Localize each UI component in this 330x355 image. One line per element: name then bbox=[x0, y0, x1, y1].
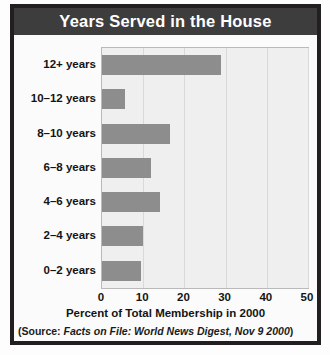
x-axis-tick-label: 50 bbox=[301, 291, 314, 303]
bar bbox=[102, 192, 160, 212]
plot-area bbox=[101, 47, 309, 289]
x-axis-tick-label: 10 bbox=[136, 291, 149, 303]
x-axis-tick-label: 30 bbox=[218, 291, 231, 303]
x-axis-tick-label: 40 bbox=[259, 291, 272, 303]
bar-row bbox=[102, 48, 308, 82]
source-suffix: ) bbox=[290, 325, 294, 337]
bar bbox=[102, 158, 151, 178]
bar bbox=[102, 124, 170, 144]
bar-row bbox=[102, 117, 308, 151]
bar bbox=[102, 55, 221, 75]
bar-row bbox=[102, 151, 308, 185]
y-axis-tick-label: 0–2 years bbox=[14, 253, 96, 287]
x-axis-labels: 01020304050 bbox=[101, 291, 307, 307]
y-axis-tick-label: 4–6 years bbox=[14, 184, 96, 218]
y-axis-tick-label: 2–4 years bbox=[14, 218, 96, 252]
gridline bbox=[308, 48, 309, 288]
bar-row bbox=[102, 185, 308, 219]
y-axis-tick-label: 12+ years bbox=[14, 47, 96, 81]
bar-series bbox=[102, 48, 308, 288]
bar-row bbox=[102, 82, 308, 116]
y-axis-tick-label: 10–12 years bbox=[14, 81, 96, 115]
y-axis-labels: 12+ years 10–12 years 8–10 years 6–8 yea… bbox=[14, 47, 96, 287]
source-note: (Source: Facts on File: World News Diges… bbox=[18, 325, 293, 337]
source-prefix: (Source: bbox=[18, 325, 61, 337]
chart-title-bar: Years Served in the House bbox=[14, 8, 317, 35]
bar bbox=[102, 226, 143, 246]
source-citation: Facts on File: World News Digest, Nov 9 … bbox=[64, 325, 290, 337]
page-title: Years Served in the House bbox=[59, 12, 271, 31]
x-axis-tick-label: 0 bbox=[98, 291, 104, 303]
bar bbox=[102, 261, 141, 281]
bar-row bbox=[102, 254, 308, 288]
x-axis-title: Percent of Total Membership in 2000 bbox=[14, 307, 317, 319]
y-axis-tick-label: 8–10 years bbox=[14, 116, 96, 150]
bar bbox=[102, 89, 125, 109]
bar-row bbox=[102, 219, 308, 253]
y-axis-tick-label: 6–8 years bbox=[14, 150, 96, 184]
x-axis-tick-label: 20 bbox=[177, 291, 190, 303]
chart-figure: Years Served in the House 12+ years 10–1… bbox=[0, 0, 330, 355]
chart-region: 12+ years 10–12 years 8–10 years 6–8 yea… bbox=[14, 35, 317, 305]
